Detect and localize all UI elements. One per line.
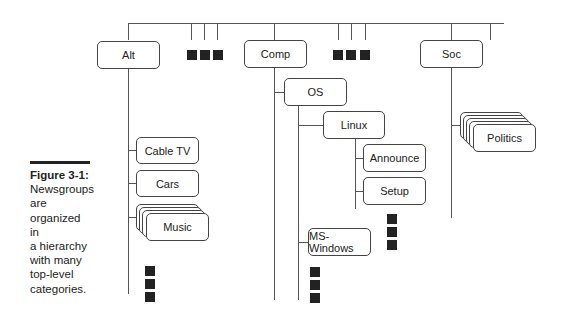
connector [451, 68, 452, 218]
connector [128, 23, 129, 40]
caption-line: Newsgroups [30, 182, 90, 196]
node-os[interactable]: OS [284, 78, 347, 106]
connector [128, 69, 129, 294]
more-groups-icon [145, 279, 155, 289]
more-groups-icon [387, 240, 397, 250]
node-soc[interactable]: Soc [420, 40, 483, 68]
connector [355, 191, 363, 192]
caption-line: organized in [30, 211, 90, 239]
connector [128, 183, 136, 184]
connector [128, 150, 136, 151]
connector [451, 125, 460, 126]
connector [451, 23, 452, 40]
more-groups-icon [200, 50, 210, 60]
caption-rule [30, 161, 90, 164]
node-label: Comp [261, 48, 290, 60]
connector [204, 23, 205, 40]
connector [128, 217, 136, 218]
caption-line: a hierarchy [30, 239, 90, 253]
node-label: Setup [380, 185, 409, 197]
connector [298, 125, 323, 126]
node-setup[interactable]: Setup [363, 177, 426, 205]
more-groups-icon [346, 50, 356, 60]
more-groups-icon [310, 267, 320, 277]
caption-line: are [30, 196, 90, 210]
more-groups-icon [387, 214, 397, 224]
connector [274, 23, 275, 40]
node-linux[interactable]: Linux [323, 111, 385, 139]
node-label: Soc [442, 48, 461, 60]
more-groups-icon [145, 292, 155, 302]
connector [191, 23, 192, 40]
more-groups-icon [310, 280, 320, 290]
caption-line: with many [30, 253, 90, 267]
more-groups-icon [310, 293, 320, 303]
more-groups-icon [145, 266, 155, 276]
more-groups-icon [360, 50, 370, 60]
node-music[interactable]: Music [146, 213, 209, 241]
connector [351, 23, 352, 40]
node-comp[interactable]: Comp [244, 40, 307, 68]
node-label: Cable TV [145, 145, 191, 157]
figure-caption: Figure 3-1: Newsgroups are organized in … [30, 161, 90, 296]
root-connector [128, 23, 504, 24]
connector [298, 242, 308, 243]
more-groups-icon [333, 50, 343, 60]
node-ms-windows[interactable]: MS-Windows [308, 228, 371, 256]
connector [355, 158, 363, 159]
node-label: Politics [487, 132, 522, 144]
node-label: MS-Windows [309, 230, 370, 254]
connector [274, 68, 275, 300]
caption-line: top-level [30, 267, 90, 281]
node-label: Linux [341, 119, 367, 131]
connector [365, 23, 366, 40]
connector [217, 23, 218, 40]
node-label: OS [308, 86, 324, 98]
node-cable-tv[interactable]: Cable TV [136, 137, 199, 164]
node-label: Announce [370, 152, 420, 164]
connector [338, 23, 339, 40]
node-alt[interactable]: Alt [97, 41, 160, 69]
node-label: Alt [122, 49, 135, 61]
connector [274, 92, 284, 93]
more-groups-icon [213, 50, 223, 60]
caption-line: categories. [30, 282, 90, 296]
connector [298, 106, 299, 300]
connector [355, 139, 356, 209]
more-groups-icon [387, 227, 397, 237]
node-announce[interactable]: Announce [363, 144, 426, 172]
node-politics[interactable]: Politics [473, 124, 536, 152]
connector [490, 23, 491, 40]
more-groups-icon [187, 50, 197, 60]
node-label: Music [163, 221, 192, 233]
caption-label: Figure 3-1: [30, 168, 90, 182]
node-cars[interactable]: Cars [136, 170, 199, 197]
node-label: Cars [156, 178, 179, 190]
